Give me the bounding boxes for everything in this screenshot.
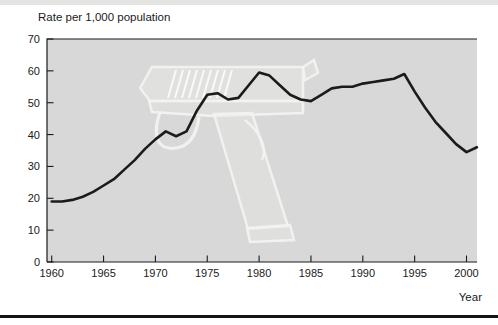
page-bottom-rule xyxy=(0,315,498,318)
y-tick-label: 50 xyxy=(28,97,40,109)
y-tick-label: 40 xyxy=(28,129,40,141)
x-tick-label: 1985 xyxy=(299,267,323,279)
x-tick-label: 1960 xyxy=(39,267,63,279)
figure-page: Rate per 1,000 population xyxy=(0,0,498,325)
crime-rate-chart: 0102030405060701960196519701975198019851… xyxy=(0,0,498,325)
y-tick-label: 10 xyxy=(28,224,40,236)
y-tick-label: 30 xyxy=(28,160,40,172)
x-tick-label: 2000 xyxy=(454,267,478,279)
x-tick-label: 1965 xyxy=(91,267,115,279)
y-tick-label: 70 xyxy=(28,33,40,45)
x-axis-title: Year xyxy=(432,291,482,303)
y-tick-label: 60 xyxy=(28,65,40,77)
x-tick-label: 1970 xyxy=(143,267,167,279)
y-tick-label: 20 xyxy=(28,192,40,204)
x-tick-label: 1990 xyxy=(351,267,375,279)
x-tick-label: 1980 xyxy=(247,267,271,279)
x-tick-label: 1975 xyxy=(195,267,219,279)
x-tick-label: 1995 xyxy=(402,267,426,279)
